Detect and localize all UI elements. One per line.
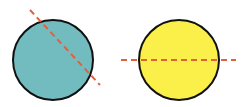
left-circle bbox=[13, 20, 93, 100]
diagram-canvas bbox=[0, 0, 246, 107]
